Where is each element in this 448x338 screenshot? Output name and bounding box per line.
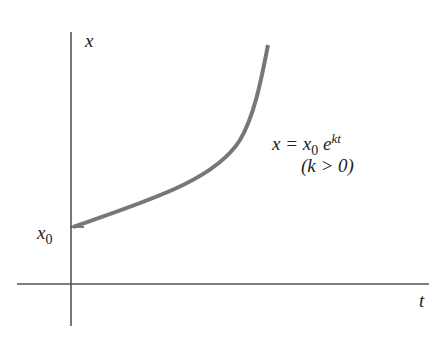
x0-label: x0 <box>37 222 52 248</box>
diagram-canvas <box>0 0 448 338</box>
x-axis-label: t <box>419 290 424 312</box>
y-axis-label: x <box>85 30 93 52</box>
equation-lhs: x = x <box>272 133 311 154</box>
x0-subscript: 0 <box>45 232 52 247</box>
equation-exponent: kt <box>331 131 340 146</box>
equation-base: e <box>318 133 331 154</box>
exponential-curve <box>73 45 268 227</box>
condition-label: (k > 0) <box>301 155 354 177</box>
